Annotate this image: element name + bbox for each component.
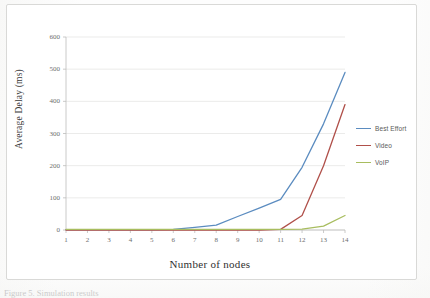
gridlines — [66, 37, 345, 230]
legend-item[interactable]: Best Effort — [356, 122, 426, 135]
legend-item[interactable]: VoIP — [356, 156, 426, 169]
legend-item[interactable]: Video — [356, 139, 426, 152]
y-tick-label: 100 — [34, 194, 60, 202]
x-tick-label: 11 — [273, 236, 289, 244]
data-series-group — [66, 72, 345, 230]
legend-color-swatch — [356, 162, 371, 163]
legend-color-swatch — [356, 128, 371, 129]
legend-color-swatch — [356, 145, 371, 146]
x-tick-label: 12 — [294, 236, 310, 244]
y-tick-label: 200 — [34, 162, 60, 170]
x-tick-label: 1 — [58, 236, 74, 244]
figure-caption: Figure 5. Simulation results — [4, 288, 304, 298]
x-axis-title: Number of nodes — [60, 258, 360, 270]
y-axis-title: Average Delay (ms) — [14, 54, 24, 164]
x-tick-label: 5 — [144, 236, 160, 244]
x-tick-label: 13 — [316, 236, 332, 244]
legend-label: Video — [375, 142, 392, 149]
y-tick-label: 0 — [34, 226, 60, 234]
x-tick-label: 4 — [122, 236, 138, 244]
y-tick-label: 300 — [34, 130, 60, 138]
y-tick-label: 400 — [34, 97, 60, 105]
y-tick-label: 600 — [34, 33, 60, 41]
x-tick-label: 8 — [208, 236, 224, 244]
x-tick-label: 6 — [165, 236, 181, 244]
y-tick-label: 500 — [34, 65, 60, 73]
chart-legend: Best EffortVideoVoIP — [356, 122, 426, 173]
x-tick-label: 7 — [187, 236, 203, 244]
line-chart: Average Delay (ms) Number of nodes 01002… — [0, 0, 430, 298]
x-tick-label: 10 — [251, 236, 267, 244]
figure-page: Average Delay (ms) Number of nodes 01002… — [0, 0, 430, 298]
x-tick-label: 14 — [337, 236, 353, 244]
axis-tick-marks — [63, 37, 345, 233]
legend-label: VoIP — [375, 159, 389, 166]
x-tick-label: 2 — [79, 236, 95, 244]
legend-label: Best Effort — [375, 125, 406, 132]
x-tick-label: 3 — [101, 236, 117, 244]
x-tick-label: 9 — [230, 236, 246, 244]
